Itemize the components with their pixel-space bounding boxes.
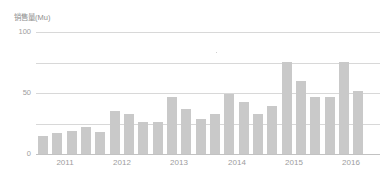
bar[interactable]	[239, 102, 249, 154]
x-axis-tick-labels: 201120122013201420152016	[36, 158, 380, 172]
bars-layer	[36, 32, 380, 154]
bar[interactable]	[310, 97, 320, 154]
bar[interactable]	[224, 94, 234, 154]
bar[interactable]	[110, 111, 120, 154]
bar[interactable]	[267, 106, 277, 154]
bar[interactable]	[138, 122, 148, 154]
x-tick-label-2011: 2011	[56, 158, 73, 168]
bar[interactable]	[253, 114, 263, 154]
y-axis-tick-labels: 050100	[0, 32, 31, 154]
bar-chart: 销售量(Mu) 050100 201120122013201420152016	[0, 0, 391, 183]
bar[interactable]	[167, 97, 177, 154]
y-axis-title: 销售量(Mu)	[14, 13, 50, 23]
x-tick-label-2012: 2012	[113, 158, 131, 168]
bar[interactable]	[95, 132, 105, 154]
bar[interactable]	[38, 136, 48, 154]
bar[interactable]	[196, 119, 206, 154]
image-speck	[216, 52, 217, 53]
x-tick-label-2013: 2013	[170, 158, 188, 168]
bar[interactable]	[210, 114, 220, 154]
bar[interactable]	[339, 62, 349, 154]
y-tick-label-50: 50	[23, 89, 31, 97]
bar[interactable]	[67, 131, 77, 154]
bar[interactable]	[296, 81, 306, 154]
x-tick-label-2014: 2014	[228, 158, 246, 168]
x-tick-label-2015: 2015	[285, 158, 303, 168]
bar[interactable]	[52, 133, 62, 154]
bar[interactable]	[153, 122, 163, 154]
bar[interactable]	[124, 114, 134, 154]
bar[interactable]	[325, 97, 335, 154]
bar[interactable]	[282, 62, 292, 154]
bar[interactable]	[81, 127, 91, 154]
bar[interactable]	[181, 109, 191, 154]
y-tick-label-0: 0	[27, 150, 31, 158]
plot-area	[36, 32, 380, 154]
gridline-0	[36, 154, 380, 155]
x-tick-label-2016: 2016	[342, 158, 360, 168]
bar[interactable]	[353, 91, 363, 154]
y-tick-label-100: 100	[18, 28, 31, 36]
